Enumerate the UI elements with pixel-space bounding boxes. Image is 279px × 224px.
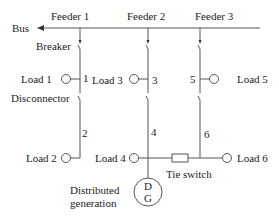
bus-label: Bus [12, 22, 29, 34]
node-5-label: 5 [190, 73, 196, 85]
load-3-label: Load 3 [92, 74, 123, 86]
feeder-3-label: Feeder 3 [195, 10, 233, 22]
node-1-label: 1 [83, 72, 89, 84]
breaker-2-icon [146, 45, 148, 49]
single-line-diagram [0, 0, 279, 224]
node-3-label: 3 [152, 74, 158, 86]
dg-symbol-top: D [144, 180, 152, 192]
dg-symbol-bottom: G [144, 192, 152, 204]
disconnector-1-icon [78, 96, 80, 100]
feeder-1-label: Feeder 1 [51, 10, 89, 22]
bus-arrow-icon [37, 25, 44, 31]
tie-switch-label: Tie switch [166, 168, 212, 180]
load-5-label: Load 5 [237, 73, 268, 85]
load-1-label: Load 1 [21, 73, 52, 85]
feeder-2-label: Feeder 2 [127, 10, 165, 22]
node-2-label: 2 [82, 127, 88, 139]
breaker-1-icon [78, 45, 80, 49]
load-3-icon [130, 75, 139, 84]
load-4-icon [130, 154, 139, 163]
load-6-label: Load 6 [237, 152, 268, 164]
tie-switch-icon [172, 154, 188, 162]
load-1-icon [62, 75, 71, 84]
load-5-icon [210, 75, 219, 84]
load-6-icon [223, 154, 232, 163]
dg-label-line2: generation [70, 197, 116, 209]
disconnector-label: Disconnector [11, 92, 70, 104]
disconnector-2-icon [146, 96, 148, 100]
disconnector-3-icon [198, 96, 200, 100]
load-2-icon [62, 154, 71, 163]
dg-label-line1: Distributed [70, 184, 120, 196]
node-4-label: 4 [151, 126, 157, 138]
breaker-3-icon [198, 45, 200, 49]
node-6-label: 6 [204, 128, 210, 140]
load-4-label: Load 4 [95, 152, 126, 164]
load-2-label: Load 2 [26, 152, 57, 164]
breaker-label: Breaker [36, 40, 71, 52]
